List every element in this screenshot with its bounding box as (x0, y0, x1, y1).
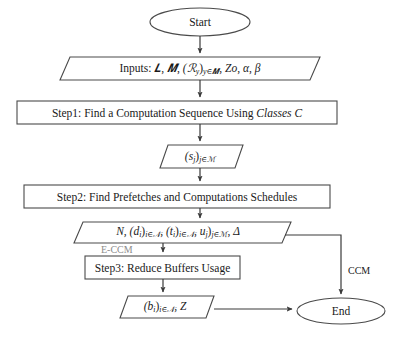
node-step2-shape (24, 185, 330, 208)
edge-label-ccm: CCM (348, 265, 370, 276)
node-inputs-shape (60, 57, 320, 80)
node-sj-shape (160, 145, 243, 168)
edge-label-e-ccm: E-CCM (101, 244, 133, 255)
node-step1-shape (17, 101, 337, 124)
flowchart-canvas: Start Inputs: 𝑳, 𝑴, (ℛy)y∈𝑴, Zo, α, β St… (0, 0, 401, 342)
edge-ccm-branch (285, 235, 341, 294)
node-outputs2-shape (74, 222, 291, 243)
node-start-shape (150, 8, 250, 36)
node-step3-shape (85, 256, 240, 279)
node-outputs3-shape (120, 296, 214, 318)
node-end-shape (297, 298, 385, 324)
flowchart-shapes-layer (0, 0, 401, 342)
